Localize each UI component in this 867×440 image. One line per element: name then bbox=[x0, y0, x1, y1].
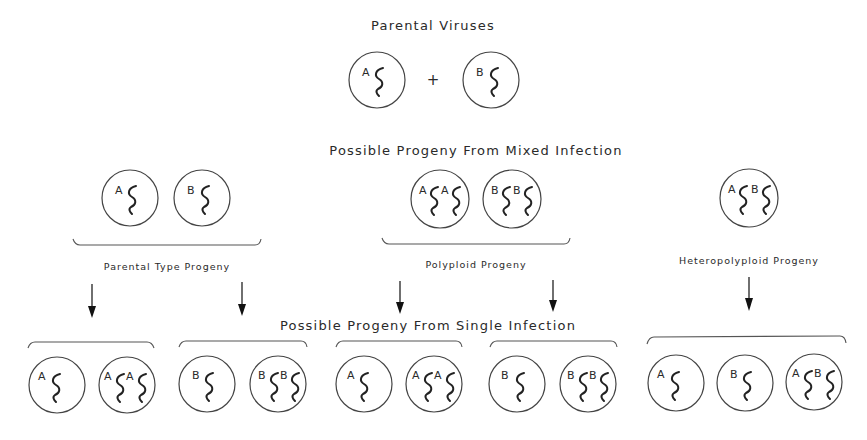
group-parental-type-progeny: A B Parental Type Progeny bbox=[73, 170, 261, 272]
arrows bbox=[88, 277, 753, 318]
arrow-down-icon bbox=[396, 281, 404, 314]
svg-text:A: A bbox=[419, 184, 427, 197]
arrow-down-icon bbox=[745, 277, 753, 311]
svg-text:B: B bbox=[192, 369, 200, 382]
svg-text:B: B bbox=[751, 183, 759, 196]
virus-a: A bbox=[336, 356, 392, 412]
svg-text:A: A bbox=[38, 370, 46, 383]
single-group-2: B B B bbox=[179, 341, 307, 412]
svg-text:A: A bbox=[126, 370, 134, 383]
svg-text:A: A bbox=[792, 367, 800, 380]
svg-text:A: A bbox=[441, 184, 449, 197]
svg-text:B: B bbox=[567, 369, 575, 382]
virus-bb: B B bbox=[483, 170, 541, 228]
svg-text:B: B bbox=[491, 184, 499, 197]
svg-text:B: B bbox=[187, 184, 195, 197]
virus-ab: A B bbox=[720, 169, 778, 227]
bracket bbox=[382, 238, 570, 244]
virus-b: B bbox=[489, 356, 545, 412]
svg-text:A: A bbox=[115, 184, 123, 197]
virus-aa: A A bbox=[406, 356, 462, 412]
virus-bb: B B bbox=[250, 356, 306, 412]
virus-ab: A B bbox=[786, 354, 842, 410]
svg-text:B: B bbox=[280, 369, 288, 382]
svg-text:B: B bbox=[589, 369, 597, 382]
svg-text:A: A bbox=[728, 183, 736, 196]
title-parental-viruses: Parental Viruses bbox=[371, 18, 495, 33]
virus-a: A bbox=[648, 355, 704, 411]
arrow-down-icon bbox=[88, 284, 96, 318]
virus-b: B bbox=[174, 170, 230, 226]
bracket bbox=[336, 341, 462, 347]
arrow-down-icon bbox=[549, 280, 557, 312]
parental-virus-a: A bbox=[349, 52, 405, 108]
virus-a: A bbox=[102, 170, 158, 226]
svg-text:A: A bbox=[362, 66, 370, 79]
virus-aa: A A bbox=[411, 170, 469, 228]
svg-text:A: A bbox=[104, 370, 112, 383]
bracket bbox=[73, 239, 261, 245]
virus-b: B bbox=[717, 355, 773, 411]
svg-text:B: B bbox=[730, 368, 738, 381]
svg-text:A: A bbox=[434, 369, 442, 382]
plus-sign: + bbox=[427, 71, 440, 89]
group-polyploid-progeny: A A B B Polyploid Progeny bbox=[382, 170, 570, 270]
bracket bbox=[490, 341, 617, 347]
parental-virus-b: B bbox=[463, 52, 519, 108]
arrow-down-icon bbox=[238, 282, 246, 316]
bracket bbox=[179, 341, 307, 347]
single-group-1: A A A bbox=[28, 342, 155, 413]
single-group-5: A B A B bbox=[647, 336, 846, 411]
virus-progeny-diagram: Parental Viruses A + B Possible Progeny … bbox=[0, 0, 867, 440]
virus-b: B bbox=[179, 356, 235, 412]
virus-bb: B B bbox=[560, 356, 616, 412]
svg-text:A: A bbox=[412, 369, 420, 382]
svg-text:B: B bbox=[513, 184, 521, 197]
bracket bbox=[647, 336, 846, 344]
label-heteropolyploid-progeny: Heteropolyploid Progeny bbox=[679, 255, 819, 266]
svg-text:B: B bbox=[258, 369, 266, 382]
svg-text:B: B bbox=[501, 369, 509, 382]
single-group-3: A A A bbox=[336, 341, 462, 412]
svg-text:A: A bbox=[657, 368, 665, 381]
svg-text:B: B bbox=[814, 367, 822, 380]
virus-aa: A A bbox=[99, 357, 155, 413]
label-parental-type-progeny: Parental Type Progeny bbox=[104, 261, 230, 272]
bracket bbox=[28, 342, 154, 348]
svg-text:B: B bbox=[476, 66, 484, 79]
svg-text:A: A bbox=[347, 369, 355, 382]
virus-a: A bbox=[29, 357, 85, 413]
label-polyploid-progeny: Polyploid Progeny bbox=[425, 259, 526, 270]
heading-single-infection: Possible Progeny From Single Infection bbox=[280, 318, 576, 333]
group-heteropolyploid-progeny: A B Heteropolyploid Progeny bbox=[679, 169, 819, 266]
single-group-4: B B B bbox=[489, 341, 617, 412]
heading-mixed-infection: Possible Progeny From Mixed Infection bbox=[329, 143, 622, 158]
